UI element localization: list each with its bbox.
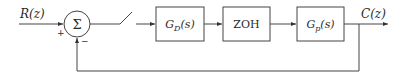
- plus-sign: +: [57, 28, 65, 38]
- sampler-switch: [120, 12, 132, 24]
- controller-label: GD(s): [165, 18, 194, 33]
- block-diagram: R(z) Σ + − GD(s) ZOH Gp(s) C(z): [0, 0, 412, 75]
- zoh-label: ZOH: [233, 18, 259, 31]
- sigma-symbol: Σ: [72, 17, 81, 32]
- plant-label: Gp(s): [306, 18, 334, 33]
- input-label: R(z): [19, 7, 45, 21]
- output-label: C(z): [361, 7, 386, 21]
- minus-sign: −: [81, 36, 89, 46]
